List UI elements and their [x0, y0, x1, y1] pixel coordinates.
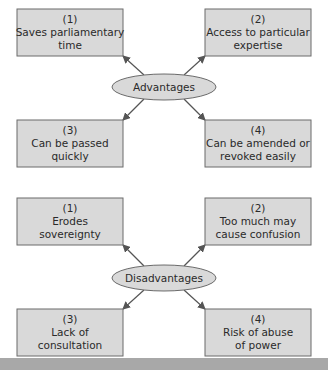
item-number: (2) — [251, 13, 266, 25]
center-node: Disadvantages — [112, 265, 216, 291]
item-number: (2) — [251, 202, 266, 214]
item-text: quickly — [51, 150, 88, 162]
disadvantages-diagram: (1)Erodessovereignty(2)Too much maycause… — [17, 198, 311, 356]
center-node: Advantages — [112, 74, 216, 100]
item-box-3: (3)Can be passedquickly — [17, 120, 123, 167]
item-text: revoked easily — [220, 150, 296, 162]
arrow-4 — [184, 290, 205, 309]
arrow-1 — [123, 245, 144, 266]
item-box-1: (1)Erodessovereignty — [17, 198, 123, 245]
item-number: (3) — [63, 124, 78, 136]
item-text: Lack of — [51, 326, 89, 338]
item-box-2: (2)Access to particularexpertise — [205, 9, 311, 56]
item-text: Too much may — [219, 215, 296, 227]
item-box-3: (3)Lack ofconsultation — [17, 309, 123, 356]
item-text: expertise — [234, 39, 283, 51]
item-number: (4) — [251, 124, 266, 136]
footer-bar — [0, 358, 328, 370]
arrow-1 — [123, 56, 144, 75]
item-text: Saves parliamentary — [16, 26, 125, 38]
arrow-2 — [184, 245, 205, 266]
item-text: consultation — [38, 339, 103, 351]
item-box-4: (4)Can be amended orrevoked easily — [205, 120, 311, 167]
item-text: sovereignty — [39, 228, 101, 240]
diagram-canvas: (1)Saves parliamentarytime(2)Access to p… — [0, 0, 328, 370]
item-text: Erodes — [52, 215, 88, 227]
item-box-2: (2)Too much maycause confusion — [205, 198, 311, 245]
item-text: cause confusion — [216, 228, 301, 240]
center-label: Advantages — [133, 81, 195, 93]
item-text: Can be amended or — [206, 137, 311, 149]
arrow-3 — [123, 290, 144, 309]
item-text: of power — [235, 339, 282, 351]
item-box-4: (4)Risk of abuseof power — [205, 309, 311, 356]
item-box-1: (1)Saves parliamentarytime — [16, 9, 125, 56]
arrow-4 — [184, 99, 205, 120]
item-text: Can be passed — [31, 137, 108, 149]
item-number: (4) — [251, 313, 266, 325]
item-number: (1) — [63, 202, 78, 214]
center-label: Disadvantages — [125, 272, 203, 284]
item-text: Access to particular — [206, 26, 310, 38]
arrow-3 — [123, 99, 144, 120]
advantages-diagram: (1)Saves parliamentarytime(2)Access to p… — [16, 9, 311, 167]
item-text: Risk of abuse — [223, 326, 293, 338]
arrow-2 — [184, 56, 205, 75]
item-number: (1) — [63, 13, 78, 25]
item-text: time — [58, 39, 82, 51]
item-number: (3) — [63, 313, 78, 325]
